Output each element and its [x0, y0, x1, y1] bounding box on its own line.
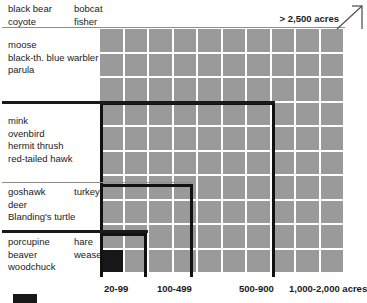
species-row: parula: [8, 64, 198, 77]
x-tick-label: 1,000-2,000 acres: [289, 283, 367, 294]
grid-cell: [321, 250, 346, 275]
species-label: goshawk: [8, 186, 46, 199]
grid-cell: [247, 103, 272, 128]
species-label: ovenbird: [8, 128, 44, 141]
species-row: mink: [8, 115, 198, 128]
grid-cell: [198, 152, 223, 177]
divider-medium: [2, 101, 275, 104]
grid-cell: [198, 54, 223, 79]
grid-cell: [198, 250, 223, 275]
species-label: woodchuck: [8, 261, 56, 274]
species-label: parula: [8, 64, 34, 77]
species-row: woodchuck: [8, 261, 198, 274]
grid-cell: [149, 78, 174, 103]
grid-cell: [321, 201, 346, 226]
grid-cell: [247, 225, 272, 250]
grid-cell: [296, 225, 321, 250]
species-row: hermit thrush: [8, 140, 198, 153]
grid-cell: [247, 29, 272, 54]
x-tick-label: 100-499: [157, 283, 192, 294]
grid-cell: [100, 78, 125, 103]
grid-cell: [296, 78, 321, 103]
grid-cell: [247, 250, 272, 275]
species-group-large: moose black-th. blue warbler parula: [8, 39, 198, 77]
species-label: turkey: [74, 186, 100, 199]
species-label: hare: [74, 236, 93, 249]
grid-cell: [223, 29, 248, 54]
grid-cell: [198, 201, 223, 226]
grid-cell: [223, 250, 248, 275]
species-label: fisher: [74, 16, 97, 29]
grid-cell: [223, 127, 248, 152]
divider-smallest: [2, 230, 148, 233]
grid-cell: [223, 201, 248, 226]
species-group-largest: black bear bobcat coyote fisher: [8, 3, 198, 28]
species-label: weasel: [74, 249, 104, 262]
grid-cell: [272, 103, 297, 128]
species-group-medium: mink ovenbird hermit thrush red-tailed h…: [8, 115, 198, 165]
grid-cell: [247, 201, 272, 226]
species-label: black-th. blue warbler: [8, 52, 98, 65]
grid-cell: [223, 78, 248, 103]
grid-cell: [321, 152, 346, 177]
grid-cell: [296, 201, 321, 226]
grid-cell: [296, 103, 321, 128]
grid-cell: [272, 225, 297, 250]
species-row: porcupine hare: [8, 236, 198, 249]
grid-cell: [321, 29, 346, 54]
grid-cell: [223, 225, 248, 250]
grid-cell: [272, 176, 297, 201]
grid-cell: [272, 250, 297, 275]
species-row: ovenbird: [8, 128, 198, 141]
legend-swatch-highlight: [13, 294, 37, 303]
grid-cell: [272, 201, 297, 226]
grid-cell: [174, 78, 199, 103]
species-row: beaver weasel: [8, 249, 198, 262]
grid-cell: [296, 250, 321, 275]
grid-cell: [296, 29, 321, 54]
species-row: black-th. blue warbler: [8, 52, 198, 65]
grid-cell: [296, 127, 321, 152]
x-tick-label: 20-99: [104, 283, 128, 294]
grid-cell: [296, 152, 321, 177]
species-label: deer: [8, 199, 27, 212]
x-axis-tick-labels: 20-99 100-499 500-900 1,000-2,000 acres: [0, 283, 367, 297]
grid-cell: [321, 78, 346, 103]
grid-cell: [296, 176, 321, 201]
species-group-small: goshawk turkey deer Blanding's turtle: [8, 186, 198, 224]
grid-cell: [223, 176, 248, 201]
grid-cell: [198, 176, 223, 201]
grid-cell: [272, 54, 297, 79]
divider-small-top: [2, 182, 192, 183]
grid-cell: [247, 176, 272, 201]
grid-cell: [198, 127, 223, 152]
grid-cell: [321, 54, 346, 79]
species-group-smallest: porcupine hare beaver weasel woodchuck: [8, 236, 198, 274]
grid-cell: [321, 127, 346, 152]
grid-cell: [198, 103, 223, 128]
species-label: coyote: [8, 16, 36, 29]
grid-cell: [321, 103, 346, 128]
up-right-arrow-icon: [336, 4, 366, 30]
x-tick-label: 500-900: [239, 283, 274, 294]
species-label: mink: [8, 115, 28, 128]
grid-cell: [272, 152, 297, 177]
species-label: Blanding's turtle: [8, 211, 75, 224]
species-label: porcupine: [8, 236, 50, 249]
species-row: red-tailed hawk: [8, 153, 198, 166]
grid-cell: [223, 103, 248, 128]
species-label: bobcat: [74, 3, 103, 16]
grid-cell: [272, 78, 297, 103]
grid-cell: [198, 29, 223, 54]
grid-cell: [272, 127, 297, 152]
species-row: coyote fisher: [8, 16, 198, 29]
grid-cell: [272, 29, 297, 54]
species-row: deer: [8, 199, 198, 212]
grid-cell: [198, 78, 223, 103]
species-label: hermit thrush: [8, 140, 63, 153]
grid-cell: [198, 225, 223, 250]
species-label: red-tailed hawk: [8, 153, 72, 166]
grid-cell: [247, 54, 272, 79]
grid-cell: [296, 54, 321, 79]
